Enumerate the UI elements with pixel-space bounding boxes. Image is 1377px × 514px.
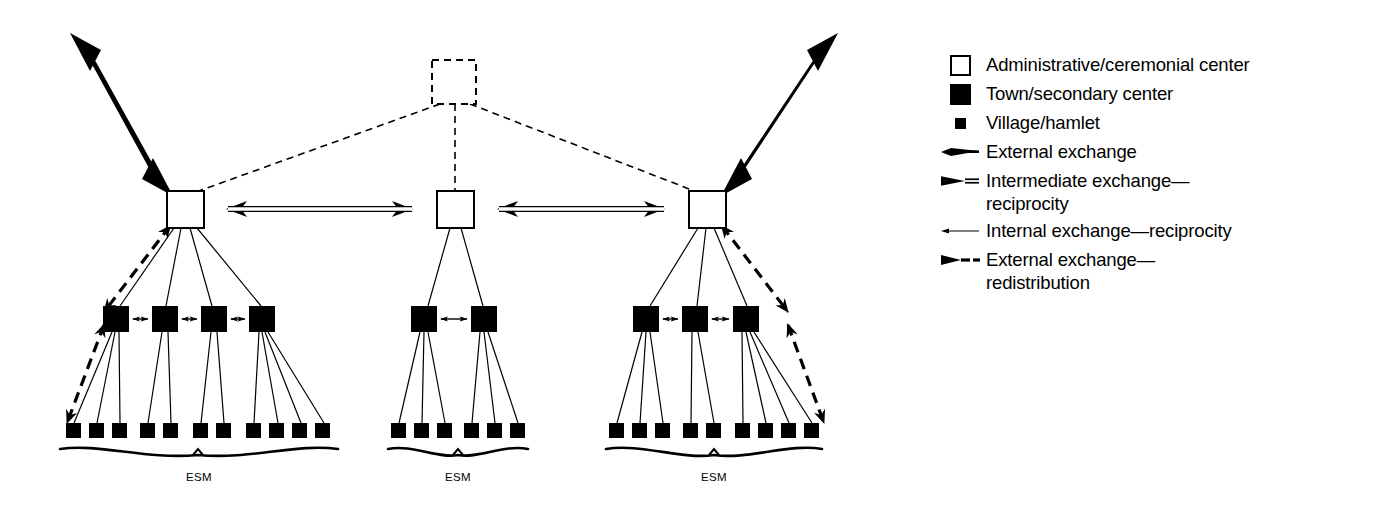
village-node bbox=[193, 423, 208, 438]
legend-item-village-hamlet: Village/hamlet bbox=[934, 110, 1364, 136]
dashed-arrow-icon bbox=[934, 247, 986, 273]
legend-item-external-exchange: External exchange bbox=[934, 139, 1364, 165]
cluster-left bbox=[60, 191, 338, 456]
town-node bbox=[201, 306, 227, 332]
link bbox=[190, 228, 212, 306]
village-node bbox=[781, 423, 796, 438]
cluster-right bbox=[606, 191, 824, 456]
external-redistribution-left-lower bbox=[67, 325, 104, 423]
town-node bbox=[103, 306, 129, 332]
village-node bbox=[706, 423, 721, 438]
town-node bbox=[411, 306, 437, 332]
link bbox=[201, 332, 211, 423]
left-village-nodes bbox=[66, 423, 330, 438]
village-node bbox=[464, 423, 479, 438]
middle-town-to-village-links bbox=[399, 332, 518, 423]
legend-label: Town/secondary center bbox=[986, 81, 1173, 105]
link bbox=[691, 332, 692, 423]
village-node bbox=[683, 423, 698, 438]
link bbox=[422, 332, 424, 423]
legend-item-internal-exchange: Internal exchange—reciprocity bbox=[934, 218, 1364, 244]
link bbox=[698, 332, 714, 423]
open-square-icon bbox=[934, 52, 986, 78]
legend-label: External exchange— redistribution bbox=[986, 247, 1155, 294]
link bbox=[650, 332, 663, 423]
link bbox=[217, 332, 224, 423]
link bbox=[168, 332, 171, 423]
right-town-nodes bbox=[633, 306, 759, 332]
apex-dashed-links bbox=[196, 104, 697, 192]
solid-thick-arrow-icon bbox=[934, 139, 986, 165]
link bbox=[197, 228, 261, 306]
village-node bbox=[89, 423, 104, 438]
admin-center-node-left bbox=[167, 191, 204, 228]
right-town-to-village-links bbox=[617, 332, 812, 423]
legend-item-intermediate-exchange: Intermediate exchange— reciprocity bbox=[934, 168, 1364, 215]
village-node bbox=[437, 423, 452, 438]
village-node bbox=[655, 423, 670, 438]
link bbox=[714, 228, 747, 306]
middle-admin-to-town-links bbox=[428, 228, 483, 306]
legend-item-town-secondary-center: Town/secondary center bbox=[934, 81, 1364, 107]
settlement-network-diagram bbox=[0, 0, 920, 514]
external-redistribution-left-upper bbox=[104, 226, 170, 312]
village-node bbox=[735, 423, 750, 438]
town-node bbox=[249, 306, 275, 332]
town-node bbox=[152, 306, 178, 332]
village-node bbox=[315, 423, 330, 438]
village-node bbox=[758, 423, 773, 438]
link bbox=[166, 228, 181, 306]
link bbox=[640, 332, 646, 423]
link bbox=[472, 332, 480, 423]
link bbox=[428, 228, 450, 306]
link bbox=[461, 228, 483, 306]
right-admin-to-town-links bbox=[650, 228, 747, 306]
link bbox=[120, 228, 174, 306]
link bbox=[488, 332, 518, 423]
legend-label: Administrative/ceremonial center bbox=[986, 52, 1250, 76]
village-node bbox=[487, 423, 502, 438]
village-node bbox=[66, 423, 81, 438]
village-node bbox=[140, 423, 155, 438]
village-node bbox=[414, 423, 429, 438]
esm-label-middle: ESM bbox=[445, 471, 471, 483]
link bbox=[428, 332, 445, 423]
link bbox=[742, 332, 743, 423]
village-node bbox=[391, 423, 406, 438]
admin-center-node-right bbox=[689, 191, 726, 228]
link bbox=[254, 332, 259, 423]
left-town-to-village-links bbox=[74, 332, 324, 423]
link bbox=[148, 332, 162, 423]
admin-center-node-middle bbox=[437, 191, 474, 228]
village-node bbox=[804, 423, 819, 438]
apex-node-dashed-square bbox=[432, 60, 476, 104]
middle-village-nodes bbox=[391, 423, 525, 438]
village-node bbox=[609, 423, 624, 438]
village-node bbox=[632, 423, 647, 438]
link bbox=[399, 332, 420, 423]
left-admin-to-town-links bbox=[120, 228, 261, 306]
link bbox=[650, 228, 698, 306]
town-node bbox=[733, 306, 759, 332]
apex-to-left-link bbox=[196, 104, 440, 192]
esm-label-right: ESM bbox=[701, 471, 727, 483]
legend-item-administrative-center: Administrative/ceremonial center bbox=[934, 52, 1364, 78]
village-node bbox=[216, 423, 231, 438]
hollow-shaft-arrow-icon bbox=[934, 168, 986, 194]
link bbox=[484, 332, 495, 423]
right-village-nodes bbox=[609, 423, 819, 438]
village-node bbox=[510, 423, 525, 438]
apex-to-right-link bbox=[470, 104, 697, 192]
legend-label: Intermediate exchange— reciprocity bbox=[986, 168, 1189, 215]
village-node bbox=[246, 423, 261, 438]
thin-line-arrow-icon bbox=[934, 218, 986, 244]
village-node bbox=[112, 423, 127, 438]
filled-square-large-icon bbox=[934, 81, 986, 107]
diagram-page: ESM ESM ESM Administrative/ceremonial ce… bbox=[0, 0, 1377, 514]
external-exchange-arrows bbox=[70, 33, 838, 196]
legend-label: Village/hamlet bbox=[986, 110, 1100, 134]
legend-label: External exchange bbox=[986, 139, 1137, 163]
link bbox=[697, 228, 706, 306]
town-node bbox=[682, 306, 708, 332]
village-node bbox=[163, 423, 178, 438]
